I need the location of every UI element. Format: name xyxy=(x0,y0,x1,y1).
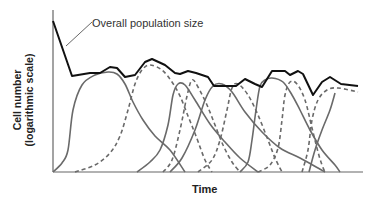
population-chart xyxy=(0,0,375,204)
overall-population-annotation: Overall population size xyxy=(92,17,203,29)
y-axis-label: Cell number (logarithmic scale) xyxy=(2,40,44,160)
subpopulation-curve xyxy=(53,72,185,172)
subpopulation-curve xyxy=(75,65,212,172)
series-group xyxy=(53,21,358,172)
x-axis-label: Time xyxy=(192,183,217,195)
annotation-leader-line xyxy=(66,22,92,46)
subpopulation-curve xyxy=(163,80,240,172)
subpopulation-curve xyxy=(137,83,258,172)
overall-population-curve xyxy=(53,21,358,95)
y-axis-label-line-2: (logarithmic scale) xyxy=(23,54,35,147)
y-axis-label-line-1: Cell number xyxy=(11,54,23,147)
